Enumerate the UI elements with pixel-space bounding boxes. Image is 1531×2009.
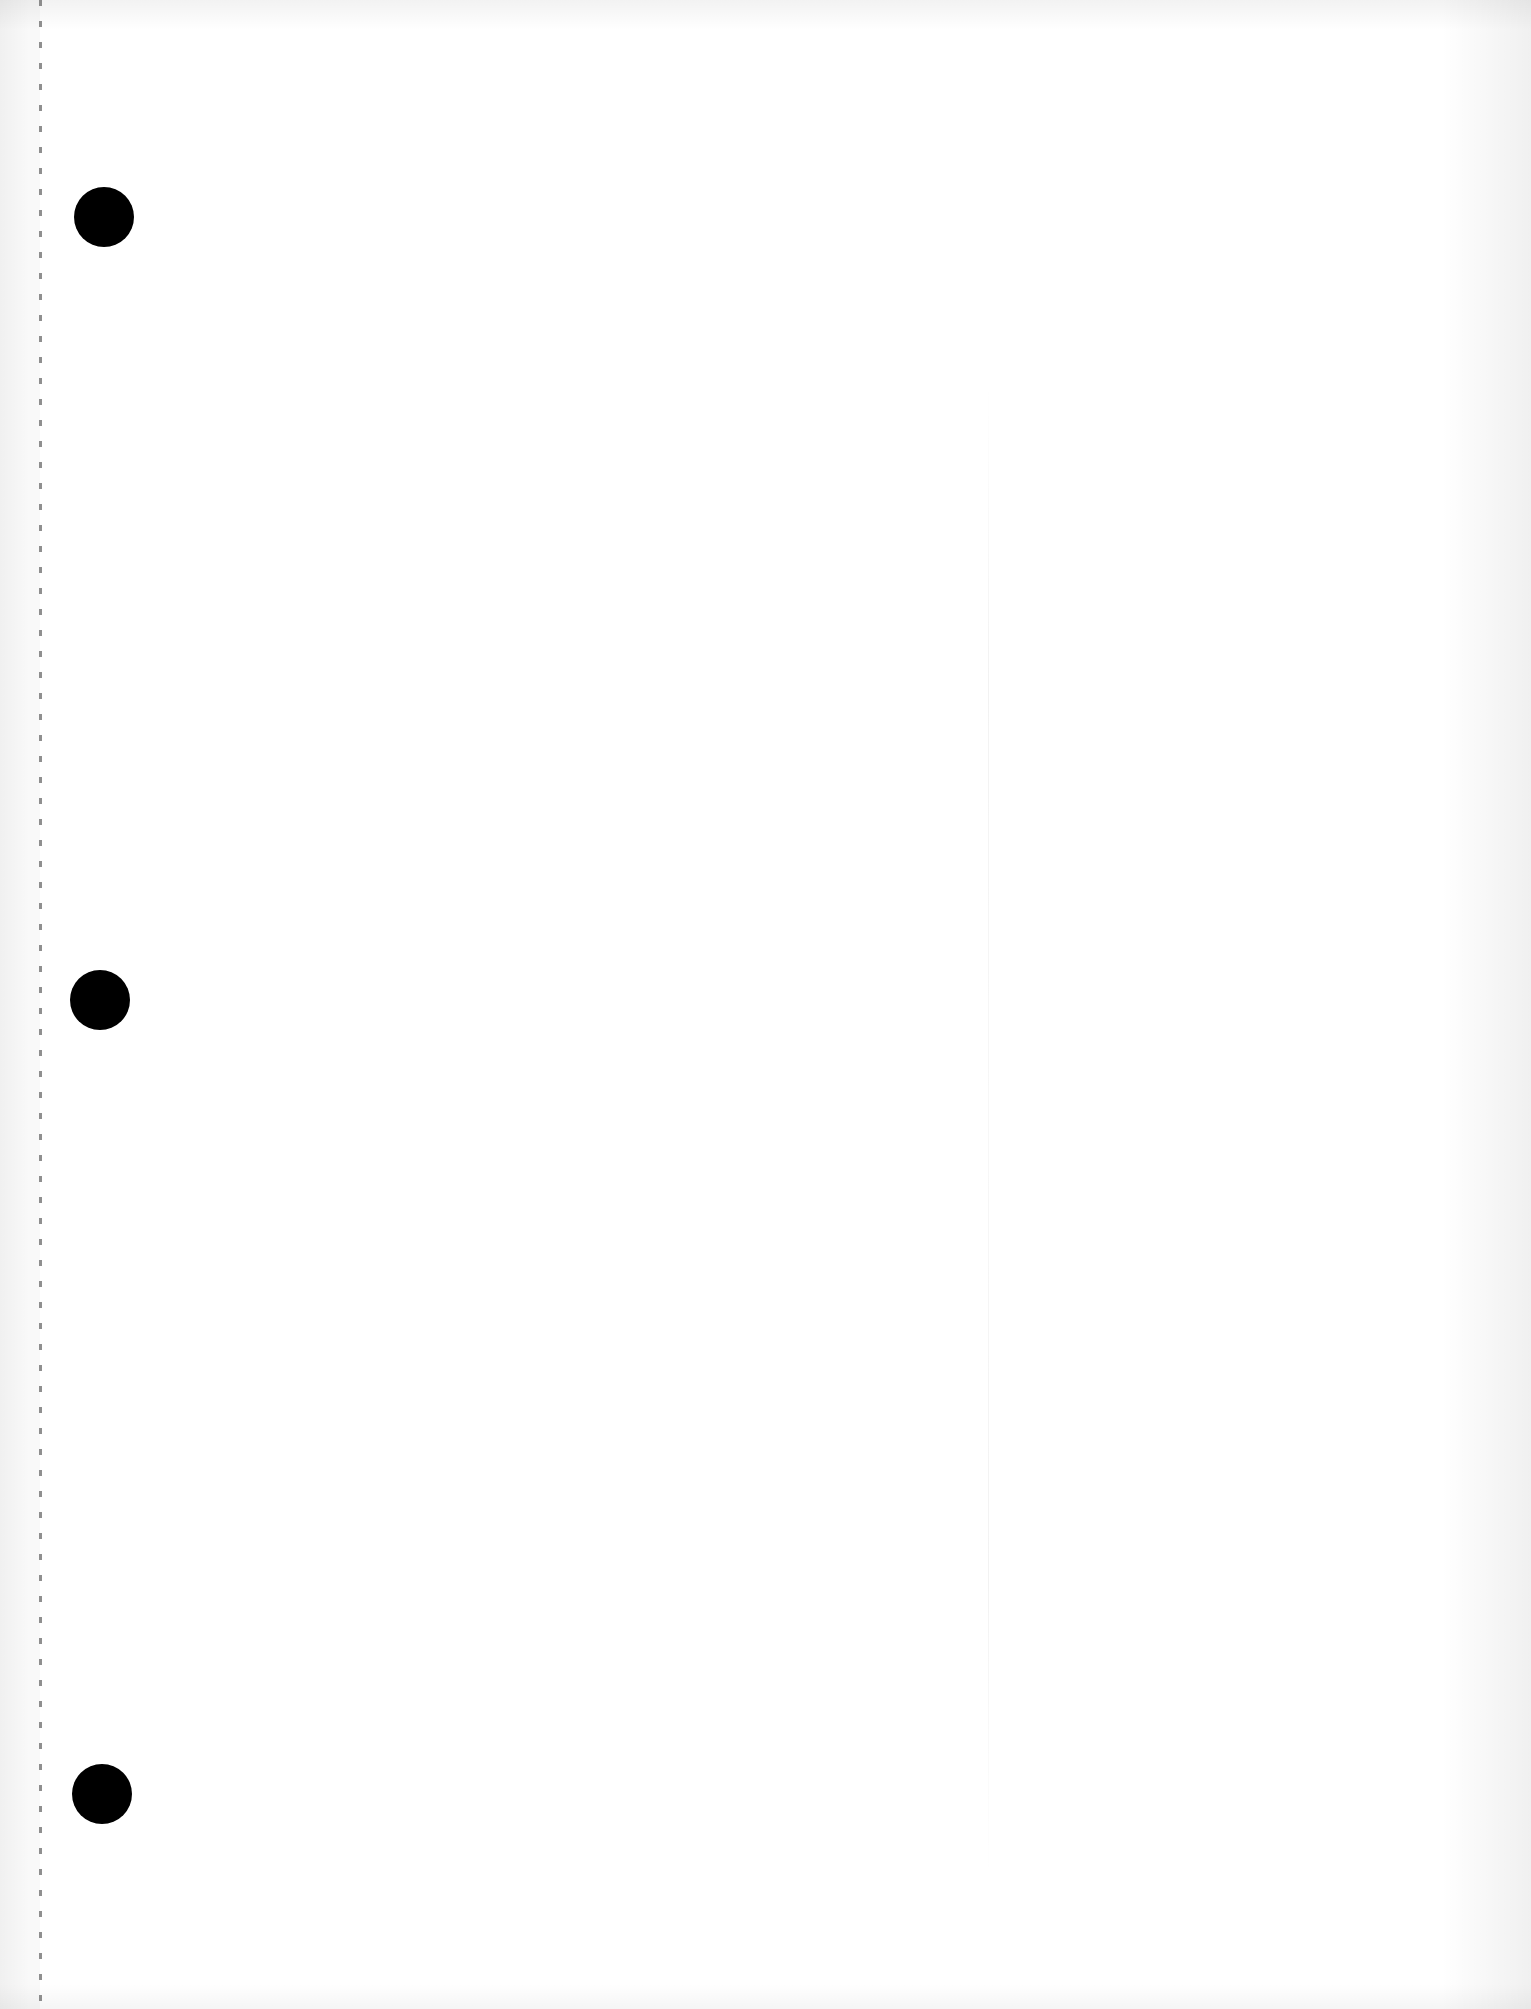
- punch-hole-top: [74, 187, 134, 247]
- punch-hole-bottom: [72, 1764, 132, 1824]
- sheet-writing-area: [140, 40, 1471, 1969]
- perforation-line: [39, 0, 42, 2009]
- paper-sheet: [0, 0, 1531, 2009]
- perforated-margin-strip: [0, 0, 40, 2009]
- punch-hole-middle: [70, 970, 130, 1030]
